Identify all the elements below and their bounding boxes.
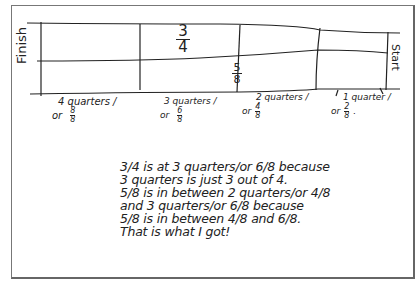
explanation-text: 3/4 is at 3 quarters/or 6/8 because 3 qu… — [120, 160, 350, 238]
bar-middle-line — [37, 50, 388, 61]
tick-label-eight-eighths: 4 quarters / or 8 8 — [58, 96, 116, 124]
start-label: Start — [389, 44, 402, 71]
tick-label-four-eighths: 2 quarters / or 4 8 — [256, 92, 309, 120]
number-line-diagram — [0, 0, 419, 287]
finish-label: Finish — [14, 27, 29, 64]
tick-label-two-eighths: 1 quarter / or 2 8 . — [343, 92, 391, 120]
explanation-line: That is what I got! — [120, 225, 350, 238]
quarter-divider — [316, 28, 320, 90]
fraction-three-fourths-mark: 3 4 — [176, 24, 190, 55]
bar-top-edge — [27, 23, 400, 33]
tick-label-six-eighths: 3 quarters / or 6 8 — [164, 96, 217, 124]
start-tick — [386, 32, 388, 90]
fraction-five-eighths-mark: 5 8 — [232, 62, 242, 85]
